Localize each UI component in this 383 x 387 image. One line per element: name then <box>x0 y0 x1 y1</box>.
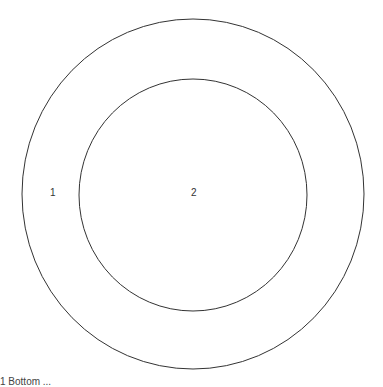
region-label-outer: 1 <box>50 188 56 198</box>
figure-caption: 1 Bottom ... <box>0 377 51 387</box>
region-label-inner: 2 <box>191 188 197 198</box>
